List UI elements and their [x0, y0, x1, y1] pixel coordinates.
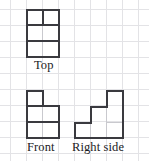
view-label-front: Front [27, 140, 55, 154]
front-outline-edge-west [26, 90, 28, 139]
right-side-outline-step-mid-rise [106, 90, 108, 107]
right-side-interior-faint-line-3 [106, 122, 122, 123]
right-side-outline-step-low-rise [90, 106, 92, 123]
top-interior-line-row1 [26, 24, 60, 26]
front-outline-edge-south [26, 137, 60, 139]
view-label-right-side: Right side [72, 140, 124, 154]
right-side-outline-edge-west [74, 122, 76, 139]
right-side-interior-faint-line-1 [90, 123, 91, 138]
top-outline-edge-east [58, 9, 60, 58]
top-outline-edge-west [26, 9, 28, 58]
front-interior-line-row1 [26, 105, 44, 107]
view-label-top: Top [34, 58, 54, 72]
orthographic-views-figure: Top Front Right side [0, 0, 149, 161]
right-side-outline-edge-south [74, 137, 124, 139]
front-interior-line-row2 [26, 121, 60, 123]
top-interior-line-row2 [26, 40, 60, 42]
right-side-outline-edge-east [122, 90, 124, 139]
